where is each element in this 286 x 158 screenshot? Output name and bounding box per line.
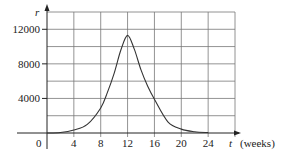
x-tick-label: 12 <box>122 137 133 149</box>
x-tick-label: 24 <box>203 137 215 149</box>
origin-label: 0 <box>36 137 42 149</box>
y-axis-arrow-icon <box>45 4 50 11</box>
y-axis-label: r <box>35 6 40 18</box>
grid <box>47 12 235 137</box>
x-tick-label: 8 <box>98 137 104 149</box>
x-tick-label: 16 <box>149 137 161 149</box>
x-axis-label: t <box>229 137 233 149</box>
x-tick-label: 4 <box>71 137 77 149</box>
x-axis-arrow-icon <box>234 131 241 136</box>
chart: 48121620244000800012000 r t (weeks) 0 <box>0 0 286 158</box>
y-tick-label: 8000 <box>18 58 41 70</box>
y-tick-label: 12000 <box>13 23 41 35</box>
x-axis-unit: (weeks) <box>240 137 275 150</box>
y-tick-label: 4000 <box>18 92 41 104</box>
x-tick-label: 20 <box>176 137 188 149</box>
axes <box>17 4 241 149</box>
